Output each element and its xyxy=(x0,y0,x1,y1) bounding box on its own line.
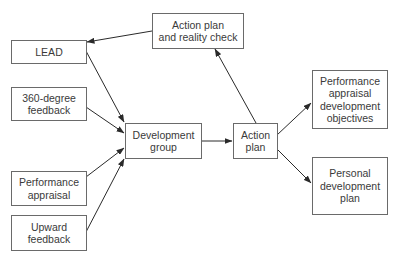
node-development-group: Development group xyxy=(125,123,202,159)
node-360-degree-feedback: 360-degree feedback xyxy=(11,87,87,121)
edge-action-plan-to-personal-plan xyxy=(277,149,311,183)
node-performance-appraisal: Performance appraisal xyxy=(11,171,87,206)
node-action-plan-reality-check: Action plan and reality check xyxy=(152,13,244,49)
diagram-canvas: Action plan and reality check LEAD 360-d… xyxy=(0,0,397,259)
edge-reality-check-to-lead xyxy=(87,31,152,42)
edge-upward-to-dev-group xyxy=(86,159,124,232)
node-upward-feedback: Upward feedback xyxy=(11,215,87,251)
edge-action-plan-to-pa-objectives xyxy=(277,103,311,135)
edge-perf-appraisal-to-dev-group xyxy=(86,148,124,177)
node-pa-development-objectives: Performance appraisal development object… xyxy=(312,70,388,129)
node-action-plan: Action plan xyxy=(233,123,278,159)
node-personal-development-plan: Personal development plan xyxy=(312,157,388,215)
edge-action-plan-to-reality-check xyxy=(215,49,256,123)
node-lead: LEAD xyxy=(11,40,87,64)
